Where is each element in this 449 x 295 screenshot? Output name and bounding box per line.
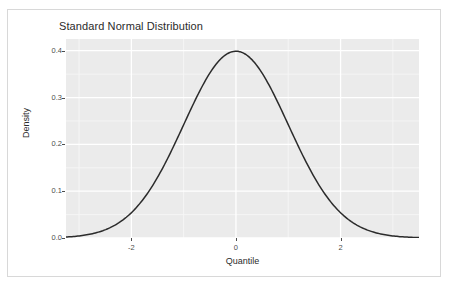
- x-tick-label: 0: [216, 243, 256, 252]
- chart-screenshot: Standard Normal Distribution 0.00.10.20.…: [0, 0, 449, 295]
- y-axis-title: Density: [21, 93, 31, 153]
- x-tick-mark: [341, 238, 342, 241]
- x-axis-title: Quantile: [66, 256, 419, 266]
- x-tick-mark: [236, 238, 237, 241]
- x-axis-ticks: -202: [0, 0, 449, 295]
- x-tick-mark: [131, 238, 132, 241]
- x-tick-label: 2: [321, 243, 361, 252]
- x-tick-label: -2: [111, 243, 151, 252]
